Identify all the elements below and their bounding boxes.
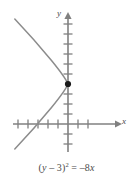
equation-caption: (y – 3)2 = –8x xyxy=(0,162,133,173)
parabola-figure: y x (y – 3)2 = –8x xyxy=(0,0,133,186)
coordinate-plot xyxy=(0,0,133,160)
y-axis-label: y xyxy=(57,9,61,18)
caption-var-x: x xyxy=(90,162,95,173)
caption-minus-three: – 3 xyxy=(47,162,62,173)
x-axis-label: x xyxy=(122,117,126,126)
y-axis-arrowhead xyxy=(64,12,71,19)
caption-equals-neg-eight: = –8 xyxy=(69,162,90,173)
x-axis-arrowhead xyxy=(115,120,122,127)
vertex-point xyxy=(65,81,71,87)
parabola-curve xyxy=(15,19,68,149)
